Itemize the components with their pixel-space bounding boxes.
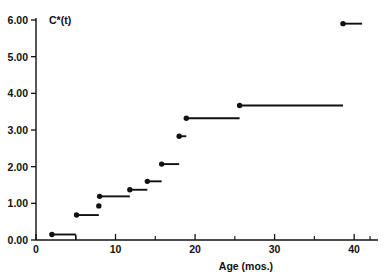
step-marker-5 (145, 179, 150, 184)
series-title: C*(t) (49, 14, 71, 26)
step-marker-1 (74, 212, 79, 217)
x-tick-label-0: 0 (33, 243, 39, 255)
x-tick-label-4: 40 (348, 243, 360, 255)
step-marker-3 (97, 194, 102, 199)
y-tick-label-5: 5.00 (8, 51, 29, 63)
step-marker-0 (49, 232, 54, 237)
x-tick-label-3: 30 (269, 243, 281, 255)
y-tick-label-4: 4.00 (8, 87, 29, 99)
step-chart-canvas: 0.001.002.003.004.005.006.00 010203040 C… (0, 0, 385, 277)
y-tick-label-2: 2.00 (8, 161, 29, 173)
step-marker-7 (176, 134, 181, 139)
chart-figure: 0.001.002.003.004.005.006.00 010203040 C… (0, 0, 385, 277)
step-marker-2 (96, 203, 101, 208)
y-tick-label-3: 3.00 (8, 124, 29, 136)
y-tick-label-6: 6.00 (8, 14, 29, 26)
step-marker-10 (340, 21, 345, 26)
step-marker-9 (237, 103, 242, 108)
y-tick-label-0: 0.00 (8, 234, 29, 246)
step-marker-4 (127, 187, 132, 192)
step-marker-6 (159, 161, 164, 166)
x-axis-title: Age (mos.) (219, 260, 273, 272)
x-tick-label-1: 10 (110, 243, 122, 255)
y-tick-label-1: 1.00 (8, 197, 29, 209)
x-tick-label-2: 20 (189, 243, 201, 255)
step-marker-8 (184, 116, 189, 121)
